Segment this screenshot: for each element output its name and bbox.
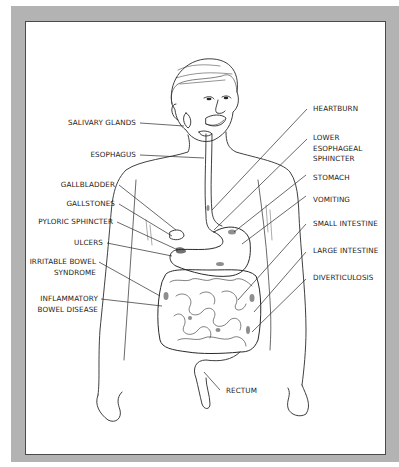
rectum-shape [194,352,240,409]
torso-outline [97,132,309,421]
large-intestine-shape [158,270,261,354]
label-rectum: RECTUM [226,386,257,397]
small-intestine-shape [174,291,246,346]
esophagus-shape [205,134,222,232]
label-esophagus: ESOPHAGUS [40,150,136,161]
label-large-intestine: LARGE INTESTINE [313,246,378,257]
label-diverticulosis: DIVERTICULOSIS [313,273,373,284]
label-stomach: STOMACH [313,173,350,184]
label-ibd-line1: INFLAMMATORY [26,294,98,305]
label-irritable-bowel-syndrome: IRRITABLE BOWEL SYNDROME [26,257,96,278]
label-ibd-line2: BOWEL DISEASE [26,305,98,316]
label-pyloric-sphincter: PYLORIC SPHINCTER [30,217,113,228]
label-les-line1: LOWER [313,133,362,144]
anatomy-illustration [0,0,399,467]
label-gallbladder: GALLBLADDER [40,180,115,191]
label-ulcers: ULCERS [40,238,103,249]
gallbladder-shape [170,230,184,240]
label-heartburn: HEARTBURN [313,104,358,115]
label-small-intestine: SMALL INTESTINE [313,219,378,230]
label-salivary-glands: SALIVARY GLANDS [40,118,136,129]
label-vomiting: VOMITING [313,195,350,206]
label-ibs-line1: IRRITABLE BOWEL [26,257,96,268]
head-outline [171,59,238,142]
label-inflammatory-bowel-disease: INFLAMMATORY BOWEL DISEASE [26,294,98,315]
label-ibs-line2: SYNDROME [26,268,96,279]
label-les-line3: SPHINCTER [313,154,362,165]
label-les-line2: ESOPHAGEAL [313,144,362,155]
label-gallstones: GALLSTONES [40,199,115,210]
label-lower-esophageal-sphincter: LOWER ESOPHAGEAL SPHINCTER [313,133,362,165]
